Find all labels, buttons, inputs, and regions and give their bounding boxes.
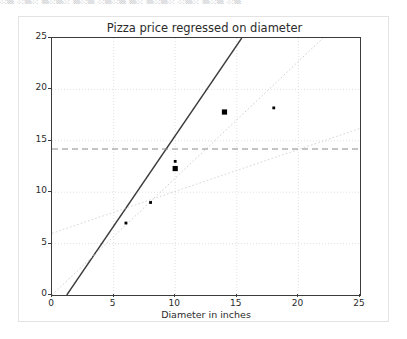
data-point — [125, 222, 128, 225]
x-tick-mark — [359, 294, 360, 297]
y-tick-mark — [48, 191, 51, 192]
y-tick-label: 20 — [21, 82, 47, 92]
y-tick-label: 5 — [21, 237, 47, 247]
x-axis-label: Diameter in inches — [51, 309, 361, 320]
screenshot-root: ░▒ ░▒░ ▒░▒░ ▒░▒ ░▒░▒ ▒░ ▒░▒░ ░▒░ ▒░▒ ░▒ … — [0, 0, 407, 339]
plot-area — [51, 37, 361, 296]
y-tick-mark — [48, 140, 51, 141]
clipped-text: ░▒ ░▒░ ▒░▒░ ▒░▒ ░▒░▒ ▒░ ▒░▒░ ░▒░ ▒░▒ ░▒ — [0, 0, 241, 5]
x-tick-mark — [113, 294, 114, 297]
x-tick-label: 10 — [161, 298, 187, 308]
chart-card: Pizza price regressed on diameter Price … — [18, 16, 389, 322]
data-point — [173, 166, 178, 171]
data-point — [272, 107, 275, 110]
x-tick-label: 20 — [284, 298, 310, 308]
y-tick-mark — [48, 88, 51, 89]
x-tick-label: 15 — [223, 298, 249, 308]
x-tick-label: 0 — [38, 298, 64, 308]
data-point — [222, 109, 227, 114]
data-point — [174, 160, 177, 163]
x-tick-mark — [297, 294, 298, 297]
y-tick-label: 0 — [21, 288, 47, 298]
x-tick-label: 5 — [100, 298, 126, 308]
y-tick-label: 15 — [21, 134, 47, 144]
data-point — [149, 201, 152, 204]
x-tick-mark — [51, 294, 52, 297]
y-tick-mark — [48, 243, 51, 244]
y-tick-label: 10 — [21, 185, 47, 195]
y-tick-mark — [48, 37, 51, 38]
y-tick-label: 25 — [21, 31, 47, 41]
x-tick-mark — [236, 294, 237, 297]
clipped-text-sliver: ░▒ ░▒░ ▒░▒░ ▒░▒ ░▒░▒ ▒░ ▒░▒░ ░▒░ ▒░▒ ░▒ — [0, 0, 407, 11]
matplotlib-figure: Pizza price regressed on diameter Price … — [19, 17, 390, 323]
chart-title: Pizza price regressed on diameter — [19, 21, 390, 35]
series-line-fitted-regression-line — [67, 38, 242, 295]
x-tick-mark — [174, 294, 175, 297]
x-tick-label: 25 — [346, 298, 372, 308]
series-line-reference-line-shallow — [52, 128, 360, 233]
plot-svg — [52, 38, 360, 295]
